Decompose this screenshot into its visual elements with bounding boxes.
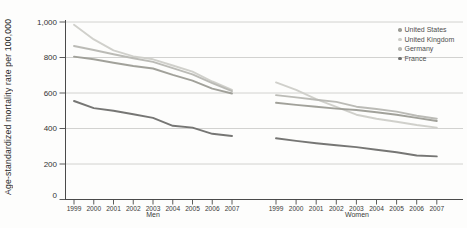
x-tick-label-Women-2006: 2006 (409, 205, 424, 212)
y-tick-label-600: 600 (44, 89, 58, 98)
legend-item-united-kingdom: United Kingdom (398, 36, 454, 44)
panel-label-men: Men (146, 211, 160, 218)
legend-label: United Kingdom (405, 36, 455, 44)
legend-label: Germany (405, 45, 434, 53)
y-tick-label-0: 0 (53, 191, 58, 200)
y-tick-label-200: 200 (44, 160, 58, 169)
x-tick-label-Women-2005: 2005 (389, 205, 404, 212)
legend-marker-icon (398, 57, 402, 61)
x-tick-label-Men-2004: 2004 (165, 205, 180, 212)
panel-label-women: Women (345, 211, 369, 218)
line-chart-canvas: 02004006008001,0001999200020012002200320… (0, 0, 467, 228)
series-line-men-france (74, 101, 232, 136)
x-tick-label-Women-2001: 2001 (309, 205, 324, 212)
series-line-women-united-states (276, 103, 437, 121)
x-tick-label-Men-2007: 2007 (225, 205, 240, 212)
x-tick-label-Men-2001: 2001 (106, 205, 121, 212)
x-tick-label-Men-2005: 2005 (185, 205, 200, 212)
x-tick-label-Men-1999: 1999 (67, 205, 82, 212)
x-tick-label-Men-2002: 2002 (126, 205, 141, 212)
legend-item-germany: Germany (398, 45, 454, 53)
x-tick-label-Women-2004: 2004 (369, 205, 384, 212)
x-tick-label-Women-2000: 2000 (289, 205, 304, 212)
x-tick-label-Women-2007: 2007 (429, 205, 444, 212)
y-tick-label-400: 400 (44, 124, 58, 133)
legend-item-united-states: United States (398, 26, 454, 34)
legend-item-france: France (398, 55, 454, 63)
x-tick-label-Women-1999: 1999 (269, 205, 284, 212)
x-tick-label-Men-2006: 2006 (205, 205, 220, 212)
legend-label: United States (405, 26, 447, 34)
y-tick-label-800: 800 (44, 53, 58, 62)
y-tick-label-1000: 1,000 (37, 18, 58, 27)
x-tick-label-Women-2002: 2002 (329, 205, 344, 212)
series-line-women-france (276, 138, 437, 156)
legend: United StatesUnited KingdomGermanyFrance (398, 26, 454, 63)
legend-label: France (405, 55, 427, 63)
x-tick-label-Men-2000: 2000 (86, 205, 101, 212)
legend-marker-icon (398, 47, 402, 51)
legend-marker-icon (398, 28, 402, 32)
legend-marker-icon (398, 38, 402, 42)
mortality-chart-figure: Age-standardized mortality rate per 100,… (0, 0, 467, 228)
